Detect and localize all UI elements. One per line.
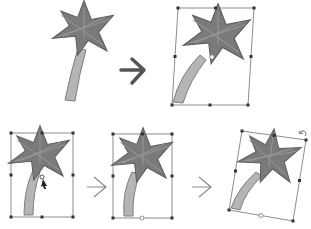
palm-step-2 xyxy=(112,128,174,220)
arrow-right-big-icon xyxy=(121,59,144,83)
arrow-right-small-icon xyxy=(87,177,106,197)
palm-trunk xyxy=(173,55,206,103)
pivot-point-icon[interactable] xyxy=(210,55,214,59)
palm-trunk xyxy=(65,48,86,101)
palm-leaves xyxy=(184,4,251,64)
palm-leaves xyxy=(112,128,173,183)
cursor-icon xyxy=(40,175,47,189)
palm-skewed xyxy=(171,4,256,107)
arrow-right-small-icon xyxy=(192,177,211,197)
pivot-point-icon[interactable] xyxy=(140,216,144,220)
palm-trunk xyxy=(24,170,40,215)
transform-diagram xyxy=(0,0,311,229)
palm-leaves xyxy=(235,125,303,188)
palm-original xyxy=(53,1,114,101)
pivot-point-icon[interactable] xyxy=(259,214,263,218)
palm-leaves xyxy=(53,1,114,56)
palm-step-3 xyxy=(228,125,308,223)
palm-step-1 xyxy=(9,126,75,219)
palm-leaves xyxy=(9,126,70,181)
palm-trunk xyxy=(231,172,262,210)
